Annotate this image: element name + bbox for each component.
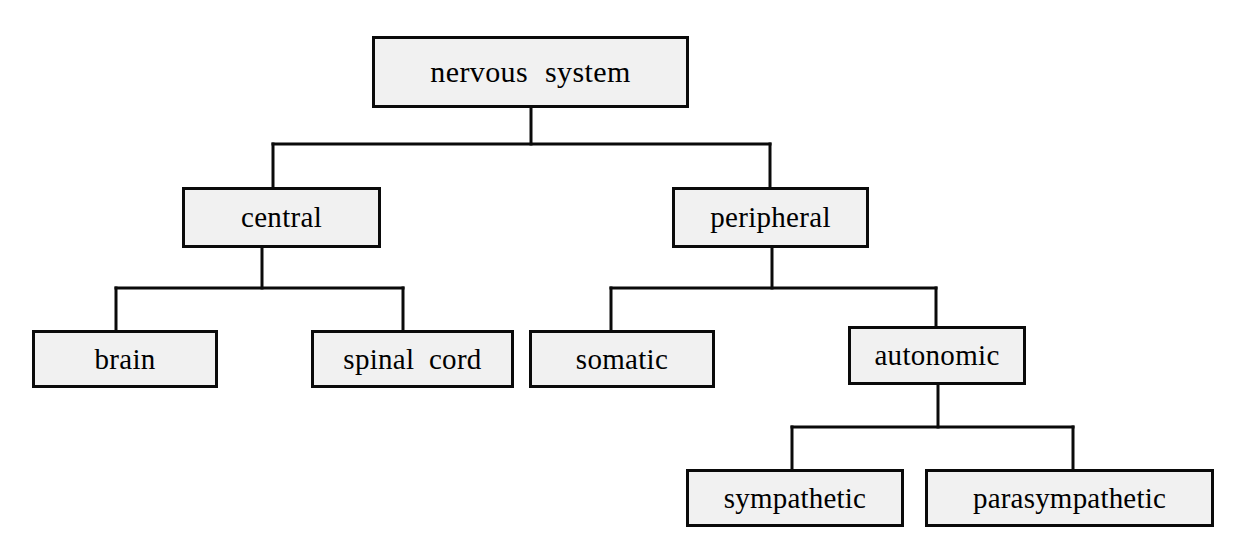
node-brain[interactable]: brain [32, 330, 218, 388]
node-label-nervous-system: nervous system [430, 57, 630, 87]
node-central[interactable]: central [182, 187, 381, 248]
node-nervous-system[interactable]: nervous system [372, 36, 689, 108]
node-spinal-cord[interactable]: spinal cord [311, 330, 514, 388]
node-somatic[interactable]: somatic [529, 330, 715, 388]
node-autonomic[interactable]: autonomic [848, 326, 1026, 385]
node-peripheral[interactable]: peripheral [672, 187, 869, 248]
node-sympathetic[interactable]: sympathetic [686, 469, 904, 527]
node-label-sympathetic: sympathetic [724, 484, 866, 513]
node-label-parasympathetic: parasympathetic [973, 484, 1166, 513]
node-label-autonomic: autonomic [874, 341, 999, 370]
node-label-brain: brain [94, 345, 155, 374]
node-label-somatic: somatic [576, 345, 668, 374]
nervous-system-diagram: nervous system central peripheral brain … [0, 0, 1242, 549]
node-label-peripheral: peripheral [710, 203, 831, 232]
node-label-spinal-cord: spinal cord [343, 345, 481, 374]
node-parasympathetic[interactable]: parasympathetic [925, 469, 1214, 527]
node-label-central: central [241, 203, 322, 232]
